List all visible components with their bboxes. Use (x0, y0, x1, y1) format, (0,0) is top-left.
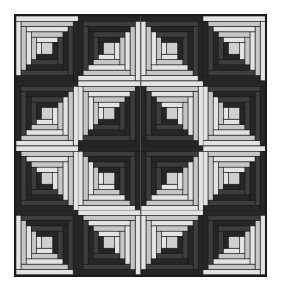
quilt-block-grid (16, 16, 265, 275)
quilt-border (14, 14, 267, 277)
quilt-block-r1-c2 (141, 81, 203, 146)
quilt-block-r1-c0 (16, 81, 78, 146)
quilt-block-r0-c2 (141, 16, 203, 81)
quilt-block-r2-c3 (203, 146, 265, 211)
quilt-block-r0-c0 (16, 16, 78, 81)
quilt-block-r3-c3 (203, 210, 265, 275)
quilt-block-r3-c0 (16, 210, 78, 275)
quilt-block-r0-c1 (78, 16, 140, 81)
quilt-block-r2-c1 (78, 146, 140, 211)
quilt-figure (0, 0, 281, 293)
quilt-block-r1-c1 (78, 81, 140, 146)
quilt-block-r3-c2 (141, 210, 203, 275)
quilt-block-r1-c3 (203, 81, 265, 146)
quilt-block-r3-c1 (78, 210, 140, 275)
quilt-block-r0-c3 (203, 16, 265, 81)
quilt-block-r2-c0 (16, 146, 78, 211)
quilt-block-r2-c2 (141, 146, 203, 211)
